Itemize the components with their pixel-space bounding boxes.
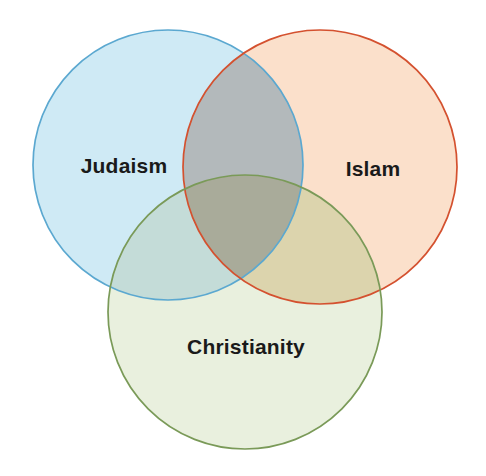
venn-label-judaism: Judaism (81, 154, 168, 178)
venn-label-christianity: Christianity (187, 335, 305, 359)
venn-label-islam: Islam (346, 157, 401, 181)
venn-canvas (0, 0, 486, 476)
venn-diagram: Judaism Islam Christianity (0, 0, 486, 476)
